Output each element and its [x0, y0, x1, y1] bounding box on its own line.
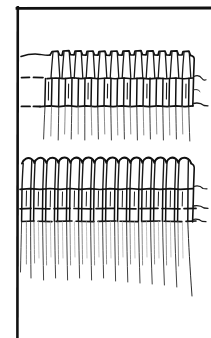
- upper-box-wall-12: [117, 78, 118, 106]
- lower-wall-10: [79, 160, 80, 189]
- upper-box-wall-2: [51, 78, 52, 106]
- upper-box-wall-6: [78, 78, 79, 106]
- lower-wall-16: [115, 159, 116, 189]
- lower-wall-22: [151, 160, 152, 189]
- figure-root: Hand-drawn line illustration: [0, 0, 211, 338]
- upper-fringe-9: [98, 107, 99, 139]
- upper-box-wall-20: [169, 78, 170, 106]
- lower-dash3-seg1: [22, 221, 34, 222]
- upper-box-wall-18: [156, 78, 157, 106]
- upper-box-wall-1: [45, 78, 46, 106]
- lower-wall-26: [175, 160, 176, 189]
- upper-box-wall-4: [65, 78, 66, 106]
- upper-fringe-13: [124, 107, 125, 139]
- lower-wall-8: [67, 159, 68, 189]
- lower-wall-2: [31, 160, 32, 189]
- upper-fringe-11: [111, 107, 112, 140]
- lower-cross-band-3-dashed: [22, 221, 196, 222]
- lower-wall-18: [127, 160, 128, 189]
- upper-fringe-3: [58, 107, 59, 140]
- upper-cross-band-1: [47, 78, 193, 79]
- illustration-canvas: [0, 0, 211, 338]
- upper-fringe-5: [71, 107, 72, 139]
- lower-wall-24: [163, 159, 164, 189]
- lower-wall-4: [43, 160, 44, 189]
- lower-wall-14: [103, 160, 104, 189]
- lower-wall-12: [91, 159, 92, 189]
- upper-fringe-15: [137, 107, 138, 140]
- upper-box-wall-16: [143, 78, 144, 106]
- upper-fringe-17: [150, 107, 151, 139]
- lower-wall-6: [55, 160, 56, 189]
- upper-box-wall-8: [91, 78, 92, 106]
- upper-fringe-19: [163, 107, 164, 140]
- upper-box-wall-10: [104, 78, 105, 106]
- upper-box-wall-14: [130, 78, 131, 106]
- upper-box-wall-22: [182, 78, 183, 106]
- lower-wall-20: [139, 159, 140, 189]
- upper-fringe-21: [176, 107, 177, 139]
